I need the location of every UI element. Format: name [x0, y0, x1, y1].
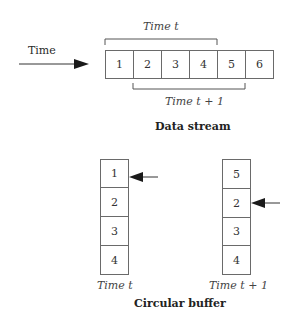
stream-cell: 5: [217, 50, 246, 79]
pointer-arrow-icon-left: [129, 172, 158, 182]
stream-cell: 4: [189, 50, 218, 79]
buffer-cell: 4: [100, 245, 129, 275]
bracket-time-t-plus-1: [133, 83, 245, 89]
bracket-time-t: [105, 39, 217, 45]
bracket-bottom-label: Time t + 1: [165, 95, 224, 108]
buffer-cell: 4: [222, 245, 251, 275]
pointer-arrow-icon-right: [251, 198, 280, 208]
circular-buffer-caption: Circular buffer: [134, 297, 226, 310]
buffer-cell: 1: [100, 159, 129, 188]
buffer-cell: 2: [222, 188, 251, 218]
buffer-left-label: Time t: [97, 279, 133, 292]
buffer-cell: 3: [100, 216, 129, 246]
buffer-cell: 5: [222, 159, 251, 189]
buffer-cell: 3: [222, 217, 251, 246]
diagram-lines: [0, 0, 298, 324]
bracket-top-label: Time t: [143, 20, 179, 33]
data-stream-caption: Data stream: [155, 120, 231, 133]
stream-cell: 1: [105, 50, 134, 79]
buffer-cell: 2: [100, 187, 129, 217]
buffer-right-label: Time t + 1: [209, 279, 268, 292]
time-arrow-icon: [19, 59, 89, 69]
stream-cell: 6: [245, 50, 274, 79]
stream-cell: 2: [133, 50, 162, 79]
stream-cell: 3: [161, 50, 190, 79]
